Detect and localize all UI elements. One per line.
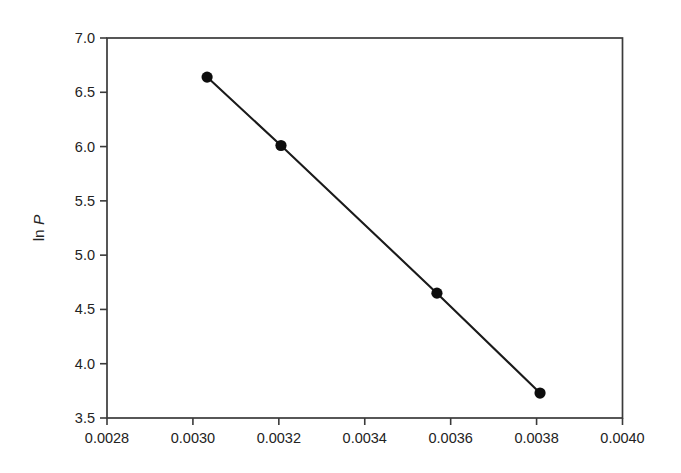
data-series [201, 71, 545, 398]
y-tick-label: 4.0 [75, 356, 95, 372]
x-tick-label: 0.0040 [600, 430, 644, 446]
y-axis: 3.54.04.55.05.56.06.57.0 [75, 30, 107, 426]
y-tick-label: 3.5 [75, 410, 95, 426]
x-axis: 0.00280.00300.00320.00340.00360.00380.00… [85, 418, 645, 446]
data-point [534, 387, 545, 398]
x-tick-label: 0.0038 [514, 430, 558, 446]
data-point [431, 288, 442, 299]
x-tick-label: 0.0030 [171, 430, 215, 446]
y-tick-label: 7.0 [75, 30, 95, 46]
x-tick-label: 0.0032 [257, 430, 301, 446]
plot-frame [107, 38, 623, 418]
y-tick-label: 6.5 [75, 84, 95, 100]
series-line [207, 77, 540, 393]
y-tick-label: 4.5 [75, 301, 95, 317]
y-tick-label: 5.0 [75, 247, 95, 263]
line-chart: 0.00280.00300.00320.00340.00360.00380.00… [0, 0, 681, 473]
data-point [201, 71, 212, 82]
x-tick-label: 0.0028 [85, 430, 129, 446]
chart-figure: 0.00280.00300.00320.00340.00360.00380.00… [0, 0, 681, 473]
y-tick-label: 5.5 [75, 193, 95, 209]
y-tick-label: 6.0 [75, 139, 95, 155]
data-point [275, 140, 286, 151]
x-tick-label: 0.0036 [428, 430, 472, 446]
x-tick-label: 0.0034 [343, 430, 387, 446]
y-axis-title: ln P [30, 214, 47, 241]
